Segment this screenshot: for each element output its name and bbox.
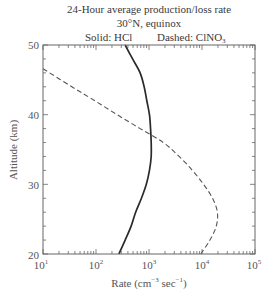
plot-canvas <box>0 0 268 293</box>
x-axis-label: Rate (cm−3 sec−1) <box>43 277 255 289</box>
x-tick-label-1e1: 101 <box>26 259 56 271</box>
y-tick-label-30: 30 <box>14 179 39 191</box>
x-tick-exp: 2 <box>100 258 104 266</box>
y-tick-label-50: 50 <box>14 39 39 51</box>
chart-subtitle: 30°N, equinox <box>43 17 255 30</box>
x-tick-base: 10 <box>247 259 258 271</box>
x-label-exp: −3 <box>151 276 158 284</box>
x-tick-exp: 5 <box>258 258 262 266</box>
x-tick-exp: 1 <box>45 258 49 266</box>
hcl-curve <box>119 45 151 254</box>
axis-ticks <box>43 45 255 254</box>
x-tick-base: 10 <box>34 259 45 271</box>
x-tick-label-1e3: 103 <box>134 259 164 271</box>
x-tick-label-1e4: 104 <box>187 259 217 271</box>
x-label-exp: −1 <box>176 276 183 284</box>
x-tick-base: 10 <box>142 259 153 271</box>
x-tick-base: 10 <box>89 259 100 271</box>
x-label-text: Rate (cm <box>111 277 151 289</box>
x-tick-label-1e2: 102 <box>81 259 111 271</box>
legend-solid-hcl: Solid: HCl <box>85 31 132 44</box>
plot-frame <box>43 45 255 254</box>
x-tick-label-1e5: 105 <box>239 259 268 271</box>
x-label-text: sec <box>159 277 176 289</box>
chart-title: 24-Hour average production/loss rate <box>43 3 255 16</box>
x-label-text: ) <box>183 277 187 289</box>
y-axis-label: Altitude (km) <box>7 120 19 180</box>
x-tick-base: 10 <box>195 259 206 271</box>
curves <box>43 45 218 254</box>
x-tick-exp: 4 <box>206 258 210 266</box>
legend-dashed-clno3: Dashed: ClNO3 <box>157 31 226 48</box>
x-tick-exp: 3 <box>153 258 157 266</box>
legend-dashed-subscript: 3 <box>222 37 226 45</box>
legend-dashed-text: Dashed: ClNO <box>157 31 222 43</box>
